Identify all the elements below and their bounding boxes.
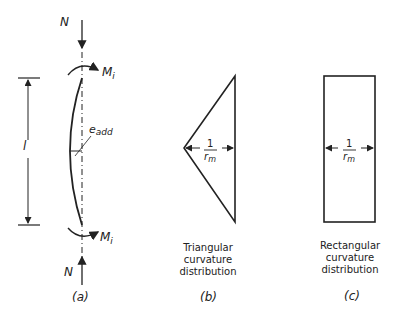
label-b-line3: distribution	[180, 266, 237, 277]
label-eadd: eadd	[89, 123, 113, 137]
caption-a: (a)	[72, 290, 89, 304]
fraction-den-b: rm	[204, 151, 216, 164]
panel-b-triangle	[184, 76, 235, 222]
label-n-top: N	[60, 15, 69, 29]
panel-a-column	[18, 20, 98, 285]
label-length: l	[23, 139, 27, 153]
fraction-num-b: 1	[207, 138, 213, 149]
caption-b: (b)	[200, 290, 217, 304]
panel-c-rectangle	[324, 76, 375, 222]
caption-c: (c)	[344, 289, 360, 303]
label-c-line3: distribution	[322, 264, 379, 275]
label-mi-bottom: Mi	[100, 230, 113, 246]
label-mi-top: Mi	[102, 65, 115, 81]
diagram-canvas: N Mi Mi N l eadd (a) 1 rm Triangular cur…	[0, 0, 399, 317]
label-b-line2: curvature	[184, 254, 232, 265]
label-n-bottom: N	[64, 265, 73, 279]
fraction-den-c: rm	[343, 151, 355, 164]
label-c-line1: Rectangular	[320, 240, 381, 251]
label-c-line2: curvature	[326, 252, 374, 263]
fraction-num-c: 1	[346, 138, 352, 149]
label-b-line1: Triangular	[182, 242, 234, 253]
